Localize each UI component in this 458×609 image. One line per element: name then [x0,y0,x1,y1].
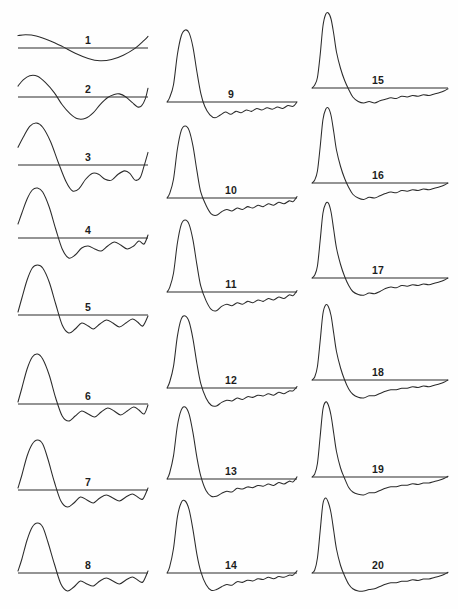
trace-label-3: 3 [85,152,91,163]
trace-group-13 [167,407,297,497]
trace-group-10 [167,126,297,215]
trace-label-5: 5 [85,302,91,313]
trace-label-9: 9 [228,89,234,100]
trace-label-7: 7 [85,477,91,488]
waveform-figure: 1234567891011121314151617181920 [0,0,458,609]
trace-group-3 [18,123,148,191]
trace-group-6 [18,354,148,421]
trace-label-4: 4 [85,225,91,236]
trace-label-8: 8 [85,560,91,571]
trace-group-1 [18,35,148,61]
trace-group-4 [18,188,148,258]
trace-group-12 [167,316,297,407]
trace-label-1: 1 [85,35,91,46]
waveform-16 [312,108,448,200]
trace-label-16: 16 [372,170,384,181]
trace-group-15 [312,13,448,103]
trace-label-18: 18 [372,367,384,378]
trace-group-18 [312,304,448,398]
waveform-11 [167,220,297,311]
trace-label-14: 14 [225,560,237,571]
trace-group-11 [167,220,297,311]
waveform-18 [312,304,448,398]
trace-group-5 [18,265,148,333]
trace-label-17: 17 [372,265,384,276]
waveform-17 [312,202,448,295]
trace-label-11: 11 [225,279,237,290]
waveform-3 [18,123,148,191]
waveform-14 [167,500,297,590]
trace-group-20 [312,498,448,591]
trace-label-19: 19 [372,464,384,475]
trace-group-2 [18,75,148,119]
waveform-10 [167,126,297,215]
trace-group-9 [167,30,297,118]
waveform-13 [167,407,297,497]
trace-group-8 [18,523,148,591]
waveform-7 [18,440,148,507]
waveform-4 [18,188,148,258]
trace-label-20: 20 [372,560,384,571]
waveform-8 [18,523,148,591]
waveform-5 [18,265,148,333]
trace-label-6: 6 [85,391,91,402]
trace-group-19 [312,402,448,495]
waveform-19 [312,402,448,495]
trace-label-13: 13 [225,466,237,477]
trace-label-10: 10 [225,185,237,196]
trace-label-15: 15 [372,75,384,86]
waveform-20 [312,498,448,591]
trace-label-12: 12 [225,375,237,386]
trace-group-14 [167,500,297,590]
waveform-12 [167,316,297,407]
waveform-15 [312,13,448,103]
trace-group-16 [312,108,448,200]
waveform-6 [18,354,148,421]
trace-group-17 [312,202,448,295]
waveform-9 [167,30,297,118]
trace-label-2: 2 [85,84,91,95]
trace-group-7 [18,440,148,507]
